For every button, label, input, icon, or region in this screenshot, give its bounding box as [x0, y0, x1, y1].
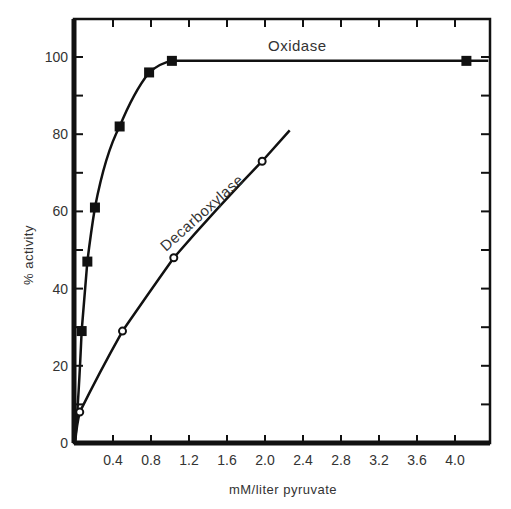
decarboxylase-point: [259, 158, 266, 165]
series-markers: [76, 56, 471, 416]
y-tick-label: 100: [45, 49, 69, 65]
x-tick-label: 2.0: [255, 452, 275, 468]
oxidase-point: [77, 326, 87, 336]
x-tick-label: 1.2: [179, 452, 199, 468]
series-curves: [75, 61, 488, 443]
y-tick-label: 0: [60, 435, 68, 451]
decarboxylase-curve: [75, 130, 290, 443]
y-tick-label: 40: [52, 281, 68, 297]
oxidase-point: [461, 56, 471, 66]
series-label-decarboxylase: Decarboxylase: [157, 171, 247, 254]
oxidase-point: [167, 56, 177, 66]
x-tick-label: 3.6: [407, 452, 427, 468]
decarboxylase-point: [76, 409, 83, 416]
oxidase-point: [115, 121, 125, 131]
plot-border: [74, 19, 490, 443]
oxidase-point: [144, 67, 154, 77]
series-label-oxidase: Oxidase: [268, 37, 327, 54]
oxidase-curve: [75, 61, 488, 443]
x-tick-label: 2.4: [293, 452, 313, 468]
y-axis-label: % activity: [21, 225, 36, 285]
plot-frame: [74, 19, 490, 443]
oxidase-point: [82, 257, 92, 267]
x-tick-label: 0.4: [103, 452, 123, 468]
x-axis-label: mM/liter pyruvate: [229, 482, 337, 497]
y-axis-ticks: 020406080100: [45, 49, 490, 451]
y-tick-label: 80: [52, 126, 68, 142]
y-tick-label: 20: [52, 358, 68, 374]
x-tick-label: 4.0: [445, 452, 465, 468]
decarboxylase-point: [119, 328, 126, 335]
x-tick-label: 3.2: [369, 452, 389, 468]
x-tick-label: 2.8: [331, 452, 351, 468]
x-tick-label: 0.8: [141, 452, 161, 468]
oxidase-point: [90, 203, 100, 213]
decarboxylase-point: [170, 254, 177, 261]
chart: 0.40.81.21.62.02.42.83.23.64.0 020406080…: [0, 0, 511, 509]
y-tick-label: 60: [52, 203, 68, 219]
x-tick-label: 1.6: [217, 452, 237, 468]
